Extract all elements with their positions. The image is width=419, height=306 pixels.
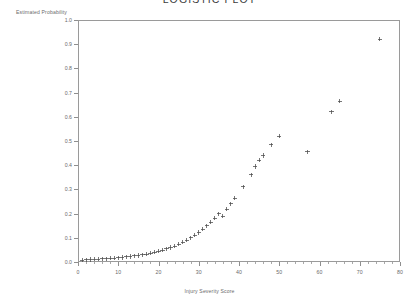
series-estimated-probability <box>80 37 382 262</box>
data-point-layer <box>0 0 419 306</box>
x-axis-label: Injury Severity Score <box>0 288 419 294</box>
logistic-plot-chart: LOGISTIC PLOT Estimated Probability 0.00… <box>0 0 419 306</box>
